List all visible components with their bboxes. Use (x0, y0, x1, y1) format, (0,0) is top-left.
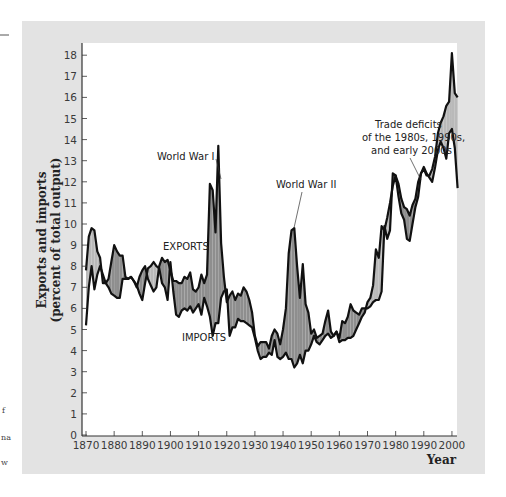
margin-fragment: na (1, 433, 11, 442)
y-tick-label: 16 (64, 91, 78, 103)
x-tick-label: 1990 (410, 439, 437, 451)
y-tick-label: 18 (64, 49, 77, 61)
annotation-ww1: World War I (157, 151, 214, 162)
y-tick-label: 14 (64, 134, 78, 146)
margin-fragment: w (1, 458, 8, 467)
y-tick-label: 12 (64, 176, 77, 188)
imports-label: IMPORTS (182, 332, 226, 343)
x-tick-label: 1940 (270, 439, 297, 451)
annotation-deficit-line3: and early 2000s (371, 145, 452, 156)
x-tick-label: 1950 (298, 439, 325, 451)
y-tick-label: 10 (64, 218, 77, 230)
x-tick-label: 2000 (439, 439, 466, 451)
y-tick-label: 6 (70, 302, 77, 314)
y-tick-label: 7 (70, 281, 77, 293)
x-tick-label: 1920 (213, 439, 240, 451)
y-axis-title: Exports and imports (percent of total ou… (35, 158, 63, 323)
x-tick-label: 1900 (157, 439, 184, 451)
x-tick-label: 1910 (185, 439, 212, 451)
plot-area (82, 43, 457, 436)
y-tick-label: 15 (64, 113, 77, 125)
y-tick-label: 11 (64, 197, 77, 209)
y-tick-label: 1 (70, 408, 77, 420)
y-tick-label: 4 (70, 345, 77, 357)
x-tick-label: 1980 (382, 439, 409, 451)
y-axis-title-line2: (percent of total output) (49, 158, 63, 323)
y-tick-label: 5 (70, 324, 77, 336)
margin-fragment: f (2, 406, 6, 415)
x-tick-label: 1870 (73, 439, 100, 451)
annotation-deficit-line1: Trade deficits (374, 119, 442, 130)
x-tick-label: 1960 (326, 439, 353, 451)
y-tick-label: 9 (70, 239, 77, 251)
x-tick-label: 1970 (354, 439, 381, 451)
y-tick-label: 8 (70, 260, 77, 272)
y-axis-title-line1: Exports and imports (35, 171, 49, 308)
y-tick-label: 17 (64, 70, 77, 82)
y-tick-label: 2 (70, 387, 77, 399)
chart: f na w 0123456789101112131415161718 1870… (0, 0, 506, 497)
x-tick-label: 1930 (242, 439, 269, 451)
x-axis-title: Year (426, 453, 457, 467)
y-tick-label: 13 (64, 155, 77, 167)
x-tick-label: 1890 (129, 439, 156, 451)
annotation-deficit-line2: of the 1980s, 1990s, (362, 132, 465, 143)
y-tick-label: 3 (70, 366, 77, 378)
exports-label: EXPORTS (163, 241, 209, 252)
x-tick-label: 1880 (101, 439, 128, 451)
annotation-ww2: World War II (276, 179, 336, 190)
